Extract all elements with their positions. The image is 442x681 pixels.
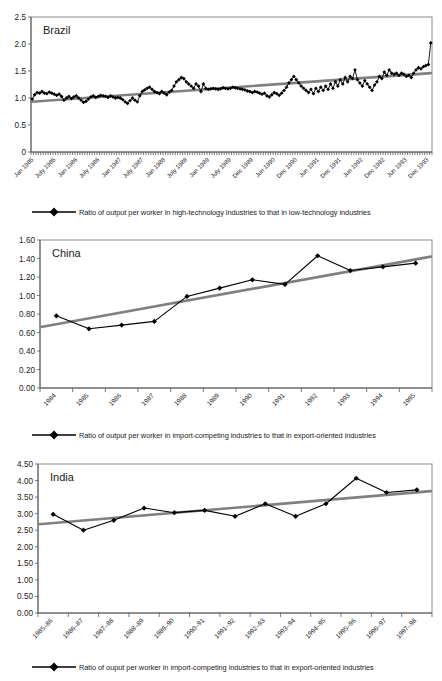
x-axis-tick-label: Dec 1992 xyxy=(362,155,386,179)
legend-marker-icon-brazil xyxy=(32,206,76,218)
china-chart-svg: 0.000.200.400.600.801.001.201.401.60Chin… xyxy=(0,228,442,429)
x-axis-tick-label: Jun 1992 xyxy=(341,155,364,178)
x-axis-tick-label: July 1988 xyxy=(165,155,189,179)
data-point-marker xyxy=(232,514,237,519)
data-point-marker xyxy=(86,326,91,331)
x-axis-tick-label: 1986 xyxy=(107,391,122,406)
brazil-chart-svg: 00.51.01.52.02.5BrazilJan 1985July 1985J… xyxy=(0,0,442,206)
data-point-marker xyxy=(172,84,176,88)
data-point-marker xyxy=(312,92,316,96)
x-axis-tick-label: 1996–97 xyxy=(364,616,387,639)
x-axis-tick-label: Dec 1989 xyxy=(231,155,255,179)
x-axis-tick-label: 1992–93 xyxy=(243,616,266,639)
y-axis-tick-label: 3.00 xyxy=(17,510,33,519)
x-axis-tick-label: 1987–88 xyxy=(92,616,115,639)
x-axis-tick-label: Jan 1988 xyxy=(144,155,167,178)
india-chart-svg: 0.000.501.001.502.002.503.003.504.004.50… xyxy=(0,453,442,661)
x-axis-tick-label: 1991–92 xyxy=(213,616,236,639)
y-axis-tick-label: 2.0 xyxy=(15,40,27,49)
data-point-marker xyxy=(141,505,146,510)
y-axis-tick-label: 0 xyxy=(21,148,26,157)
x-axis-tick-label: 1990 xyxy=(238,391,253,406)
legend-china: Ratio of output per worker in import-com… xyxy=(0,429,442,441)
x-axis-tick-label: Jun 1990 xyxy=(253,155,276,178)
panel-title: China xyxy=(52,247,82,259)
x-axis-tick-label: 1991 xyxy=(271,391,286,406)
x-axis-tick-label: Jan 1987 xyxy=(100,155,123,178)
panel-title: Brazil xyxy=(43,24,71,36)
y-axis-tick-label: 0.5 xyxy=(15,121,27,130)
x-axis-tick-label: 1995–96 xyxy=(334,616,357,639)
y-axis-tick-label: 0.80 xyxy=(19,310,35,319)
x-axis-tick-label: July 1986 xyxy=(77,155,101,179)
x-axis-tick-label: 1990–91 xyxy=(183,616,206,639)
x-axis-tick-label: July 1989 xyxy=(209,155,233,179)
x-axis-tick-label: Jun 1993 xyxy=(385,155,408,178)
data-point-marker xyxy=(81,528,86,533)
y-axis-tick-label: 0.00 xyxy=(19,384,35,393)
x-axis-tick-label: 1994 xyxy=(369,391,384,406)
y-axis-tick-label: 1.40 xyxy=(19,255,35,264)
data-point-marker xyxy=(217,286,222,291)
y-axis-tick-label: 2.5 xyxy=(15,13,27,22)
x-axis-tick-label: Jan 1986 xyxy=(56,155,79,178)
chart-panel-brazil: 00.51.01.52.02.5BrazilJan 1985July 1985J… xyxy=(0,0,442,228)
x-axis-tick-label: 1988 xyxy=(173,391,188,406)
data-point-marker xyxy=(329,82,333,86)
data-series-line xyxy=(53,478,417,530)
x-axis-tick-label: 1987 xyxy=(140,391,155,406)
x-axis-tick-label: 1985 xyxy=(75,391,90,406)
chart-panel-china: 0.000.200.400.600.801.001.201.401.60Chin… xyxy=(0,228,442,453)
data-point-marker xyxy=(119,323,124,328)
y-axis-tick-label: 4.00 xyxy=(17,477,33,486)
x-axis-tick-label: 1984 xyxy=(42,391,57,406)
data-point-marker xyxy=(336,84,340,88)
y-axis-tick-label: 0.40 xyxy=(19,347,35,356)
legend-marker-icon-india xyxy=(32,661,76,673)
x-axis-tick-label: Jan 1985 xyxy=(12,155,35,178)
x-axis-tick-label: 1993–94 xyxy=(273,616,296,639)
legend-label-brazil: Ratio of output per worker in high-techn… xyxy=(79,208,371,217)
chart-panel-india: 0.000.501.001.502.002.503.003.504.004.50… xyxy=(0,453,442,681)
y-axis-tick-label: 1.0 xyxy=(15,94,27,103)
x-axis-tick-label: 1997–98 xyxy=(395,616,418,639)
data-point-marker xyxy=(331,86,335,90)
legend-brazil: Ratio of output per worker in high-techn… xyxy=(0,206,442,218)
data-point-marker xyxy=(172,510,177,515)
trend-line xyxy=(41,257,431,327)
y-axis-tick-label: 1.20 xyxy=(19,273,35,282)
data-series-line xyxy=(32,43,431,103)
y-axis-tick-label: 1.60 xyxy=(19,236,35,245)
x-axis-tick-label: 1989 xyxy=(205,391,220,406)
y-axis-tick-label: 0.00 xyxy=(17,609,33,618)
y-axis-tick-label: 0.20 xyxy=(19,366,35,375)
panel-title: India xyxy=(50,471,75,483)
y-axis-tick-label: 1.00 xyxy=(19,292,35,301)
x-axis-tick-label: 1985–86 xyxy=(31,616,54,639)
x-axis-tick-label: July 1985 xyxy=(33,155,57,179)
legend-india: Ratio of ouput per worker in import-comp… xyxy=(0,661,442,673)
x-axis-tick-label: July 1987 xyxy=(121,155,145,179)
x-axis-tick-label: 1993 xyxy=(336,391,351,406)
y-axis-tick-label: 0.60 xyxy=(19,329,35,338)
x-axis-tick-label: Dec 1991 xyxy=(319,155,343,179)
data-point-marker xyxy=(201,82,205,86)
y-axis-tick-label: 1.00 xyxy=(17,576,33,585)
x-axis-tick-label: 1994–95 xyxy=(304,616,327,639)
data-point-marker xyxy=(250,277,255,282)
y-axis-tick-label: 0.50 xyxy=(17,592,33,601)
y-axis-tick-label: 3.50 xyxy=(17,493,33,502)
x-axis-tick-label: 1992 xyxy=(303,391,318,406)
x-axis-tick-label: 1989–90 xyxy=(152,616,175,639)
y-axis-tick-label: 2.50 xyxy=(17,526,33,535)
x-axis-tick-label: Dec 1990 xyxy=(275,155,299,179)
data-point-marker xyxy=(293,514,298,519)
legend-label-india: Ratio of ouput per worker in import-comp… xyxy=(79,663,374,672)
data-point-marker xyxy=(202,508,207,513)
x-axis-tick-label: Jan 1989 xyxy=(188,155,211,178)
data-point-marker xyxy=(51,512,56,517)
x-axis-tick-label: Jun 1991 xyxy=(297,155,320,178)
data-point-marker xyxy=(341,82,345,86)
x-axis-tick-label: 1986–87 xyxy=(61,616,84,639)
x-axis-tick-label: Dec 1993 xyxy=(406,155,430,179)
